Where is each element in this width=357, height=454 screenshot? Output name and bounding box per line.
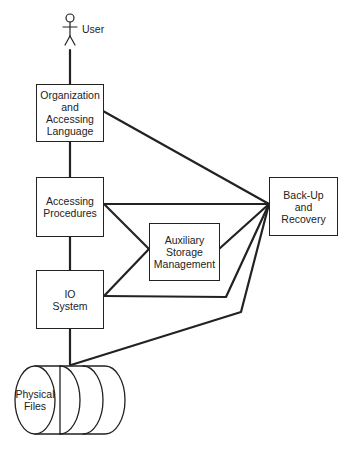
edge-access-aux — [104, 204, 149, 249]
user-actor-icon — [63, 14, 77, 45]
backup-recovery-box: Back-Up and Recovery — [269, 177, 338, 236]
user-label: User — [82, 23, 104, 35]
accessing-procedures-box: Accessing Procedures — [36, 177, 104, 237]
organization-accessing-language-box: Organization and Accessing Language — [36, 84, 104, 142]
accessing-procedures-label: Accessing Procedures — [43, 195, 97, 219]
physical-files-label: Physical Files — [15, 388, 55, 412]
auxiliary-storage-management-label: Auxiliary Storage Management — [154, 234, 215, 270]
backup-recovery-label: Back-Up and Recovery — [281, 189, 325, 225]
edge-org-backup — [103, 111, 269, 204]
auxiliary-storage-management-box: Auxiliary Storage Management — [149, 223, 220, 281]
io-system-label: IO System — [52, 288, 87, 312]
organization-accessing-language-label: Organization and Accessing Language — [40, 89, 100, 137]
io-system-box: IO System — [36, 270, 104, 329]
edge-aux-backup — [219, 204, 269, 249]
edge-io-aux — [104, 249, 149, 296]
